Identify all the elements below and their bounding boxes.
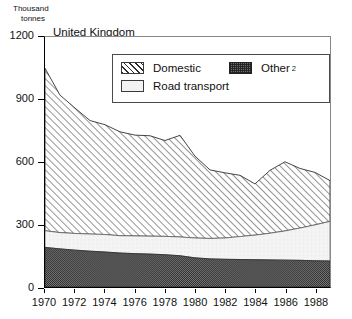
y-tick-mark [38, 99, 44, 100]
y-tick-mark [38, 225, 44, 226]
x-tick-mark [286, 289, 287, 293]
legend-swatch-domestic-icon [121, 62, 144, 74]
x-tick-mark [165, 289, 166, 293]
x-tick-label: 1982 [213, 296, 237, 308]
y-tick-label: 1200 [0, 29, 34, 41]
x-tick-label: 1986 [273, 296, 297, 308]
y-tick-mark [38, 162, 44, 163]
legend-swatch-road-transport-icon [121, 80, 144, 92]
x-tick-label: 1978 [153, 296, 177, 308]
y-tick-label: 900 [0, 92, 34, 104]
x-tick-mark [104, 289, 105, 293]
y-axis-label-line1: Thousand [13, 4, 49, 14]
chart-figure: Thousand tonnes United Kingdom [0, 0, 352, 319]
x-tick-mark [74, 289, 75, 293]
x-tick-label: 1976 [122, 296, 146, 308]
y-tick-label: 600 [0, 155, 34, 167]
legend-item-other: Other2 [229, 62, 296, 74]
legend-label-domestic: Domestic [153, 62, 201, 74]
legend-swatch-other-icon [229, 62, 252, 74]
x-tick-label: 1988 [304, 296, 328, 308]
x-tick-label: 1984 [243, 296, 267, 308]
chart-legend: Domestic Other2 Road transport [112, 54, 330, 103]
x-tick-mark [44, 289, 45, 293]
y-tick-mark [38, 36, 44, 37]
x-tick-mark [135, 289, 136, 293]
legend-footnote-marker-other: 2 [292, 64, 296, 73]
x-tick-mark [225, 289, 226, 293]
legend-item-domestic: Domestic [121, 62, 201, 74]
x-tick-mark [195, 289, 196, 293]
y-axis-label-line2: tonnes [21, 14, 45, 24]
x-tick-label: 1970 [32, 296, 56, 308]
x-tick-mark [316, 289, 317, 293]
x-tick-label: 1974 [92, 296, 116, 308]
legend-label-other: Other [261, 62, 290, 74]
y-tick-label: 0 [0, 281, 34, 293]
x-tick-label: 1972 [62, 296, 86, 308]
legend-item-road-transport: Road transport [121, 80, 229, 92]
x-tick-label: 1980 [183, 296, 207, 308]
legend-label-road-transport: Road transport [153, 80, 229, 92]
y-tick-label: 300 [0, 218, 34, 230]
x-tick-mark [255, 289, 256, 293]
